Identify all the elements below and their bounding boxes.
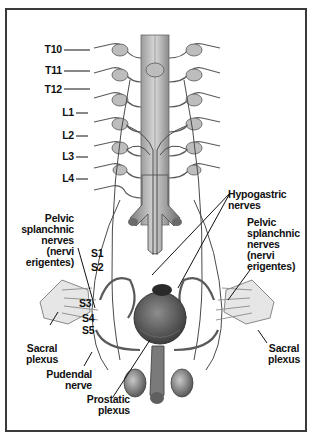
label-s1: S1 (91, 248, 103, 259)
bladder (134, 284, 186, 344)
label-t11: T11 (32, 65, 62, 76)
sacral-plexus-right (216, 280, 274, 324)
label-sacral-plexus-left: Sacral plexus (20, 343, 64, 365)
label-l2: L2 (44, 130, 74, 141)
penis (150, 346, 164, 404)
label-prostatic-plexus: Prostatic plexus (80, 394, 130, 416)
label-t12: T12 (32, 84, 62, 95)
aorta-bifurcation (128, 175, 182, 254)
label-pudendal-nerve: Pudendal nerve (40, 369, 92, 391)
label-pelvic-splanchnic-right: Pelvic splanchnic nerves (nervi erigente… (247, 217, 300, 272)
label-l4: L4 (44, 173, 74, 184)
label-l1: L1 (44, 107, 74, 118)
label-l3: L3 (44, 151, 74, 162)
label-s2: S2 (91, 262, 103, 273)
label-s3: S3 (79, 298, 91, 309)
label-s4: S4 (82, 313, 94, 324)
label-sacral-plexus-right: Sacral plexus (262, 343, 306, 365)
label-s5: S5 (82, 325, 94, 336)
label-hypogastric-nerves: Hypogastric nerves (228, 189, 286, 211)
label-t10: T10 (32, 44, 62, 55)
label-pelvic-splanchnic-left: Pelvic splanchnic nerves (nervi erigente… (18, 213, 74, 268)
